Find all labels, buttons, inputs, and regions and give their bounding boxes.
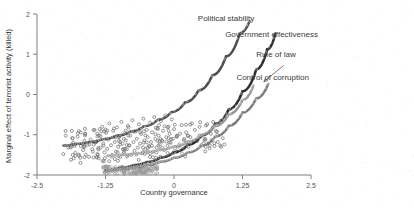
noise-speck — [222, 198, 223, 199]
noise-speck — [117, 49, 118, 50]
y-tick-label: 1 — [26, 51, 30, 58]
noise-speck — [14, 204, 15, 205]
noise-speck — [96, 81, 97, 82]
y-axis-title: Marginal effect of terrorist activity (k… — [4, 28, 13, 163]
noise-speck — [366, 126, 367, 127]
noise-speck — [345, 43, 346, 44]
noise-speck — [123, 58, 124, 59]
noise-speck — [171, 6, 172, 7]
noise-speck — [134, 121, 135, 122]
noise-speck — [327, 86, 328, 87]
noise-speck — [156, 79, 157, 80]
noise-speck — [382, 194, 383, 195]
noise-speck — [203, 114, 204, 115]
noise-speck — [204, 123, 205, 124]
noise-speck — [52, 14, 53, 15]
noise-speck — [48, 153, 49, 154]
x-tick-label: -1.25 — [98, 182, 114, 189]
noise-speck — [140, 93, 141, 94]
noise-speck — [255, 148, 256, 149]
noise-speck — [131, 2, 132, 3]
noise-speck — [19, 96, 20, 97]
noise-speck — [62, 61, 63, 62]
noise-speck — [298, 134, 299, 135]
noise-speck — [403, 173, 404, 174]
noise-speck — [194, 101, 195, 102]
noise-speck — [150, 27, 151, 28]
noise-speck — [284, 119, 285, 120]
noise-speck — [42, 41, 43, 42]
noise-speck — [408, 207, 409, 208]
noise-speck — [370, 17, 371, 18]
noise-speck — [59, 149, 60, 150]
noise-speck — [183, 116, 184, 117]
noise-speck — [28, 160, 29, 161]
noise-speck — [31, 79, 32, 80]
noise-speck — [56, 112, 57, 113]
noise-speck — [145, 19, 146, 20]
noise-speck — [334, 200, 335, 201]
noise-speck — [253, 94, 254, 95]
noise-speck — [82, 32, 83, 33]
noise-speck — [251, 156, 252, 157]
noise-speck — [24, 16, 25, 17]
noise-speck — [2, 22, 3, 23]
noise-speck — [42, 194, 43, 195]
noise-speck — [226, 132, 227, 133]
noise-speck — [346, 194, 347, 195]
noise-speck — [289, 149, 290, 150]
noise-speck — [327, 85, 328, 86]
noise-speck — [54, 115, 55, 116]
noise-speck — [14, 61, 15, 62]
noise-speck — [360, 167, 361, 168]
noise-speck — [99, 108, 100, 109]
noise-speck — [131, 59, 132, 60]
noise-speck — [388, 87, 389, 88]
noise-speck — [302, 194, 303, 195]
noise-speck — [403, 18, 404, 19]
noise-speck — [130, 185, 131, 186]
noise-speck — [235, 202, 236, 203]
noise-speck — [384, 95, 385, 96]
noise-speck — [43, 13, 44, 14]
noise-speck — [284, 169, 285, 170]
noise-speck — [139, 12, 140, 13]
noise-speck — [407, 11, 408, 12]
noise-speck — [161, 21, 162, 22]
noise-speck — [373, 61, 374, 62]
noise-speck — [191, 62, 192, 63]
noise-speck — [315, 132, 316, 133]
noise-speck — [47, 60, 48, 61]
noise-speck — [31, 5, 32, 6]
figure-background — [0, 0, 414, 208]
noise-speck — [166, 119, 167, 120]
noise-speck — [208, 110, 209, 111]
noise-speck — [311, 208, 312, 209]
noise-speck — [302, 17, 303, 18]
noise-speck — [291, 111, 292, 112]
noise-speck — [180, 200, 181, 201]
noise-speck — [331, 54, 332, 55]
noise-speck — [234, 59, 235, 60]
noise-speck — [201, 170, 202, 171]
noise-speck — [74, 84, 75, 85]
noise-speck — [150, 115, 151, 116]
noise-speck — [167, 16, 168, 17]
noise-speck — [295, 60, 296, 61]
noise-speck — [94, 70, 95, 71]
noise-speck — [303, 134, 304, 135]
noise-speck — [303, 117, 304, 118]
noise-speck — [282, 168, 283, 169]
noise-speck — [220, 205, 221, 206]
noise-speck — [188, 53, 189, 54]
noise-speck — [188, 17, 189, 18]
noise-speck — [340, 82, 341, 83]
annotation-label-2: Rule of law — [256, 50, 296, 59]
noise-speck — [263, 179, 264, 180]
noise-speck — [339, 203, 340, 204]
noise-speck — [171, 207, 172, 208]
noise-speck — [28, 37, 29, 38]
noise-speck — [38, 61, 39, 62]
annotation-label-1: Government effectiveness — [225, 30, 318, 39]
noise-speck — [143, 118, 144, 119]
